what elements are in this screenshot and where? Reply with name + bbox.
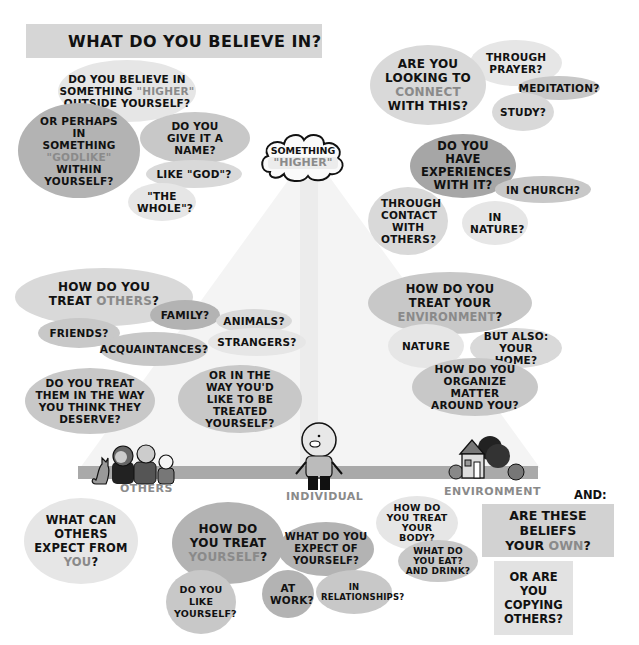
bubble-study: STUDY? xyxy=(492,93,554,131)
bubble-the-whole: "THE WHOLE"? xyxy=(128,183,196,221)
bubble-contact-others: THROUGH CONTACT WITH OTHERS? xyxy=(368,187,448,255)
others-figures-icon xyxy=(90,440,190,488)
bubble-like-yourself: DO YOU LIKE YOURSELF? xyxy=(166,570,236,634)
beliefs-own-box: ARE THESE BELIEFS YOUR OWN? xyxy=(482,504,614,557)
individual-figure-icon xyxy=(290,420,348,492)
bubble-relationships: IN RELATIONSHIPS? xyxy=(316,570,392,614)
label-others: OTHERS xyxy=(120,482,173,495)
bubble-treat-environment: HOW DO YOU TREAT YOUR ENVIRONMENT? xyxy=(368,272,532,334)
bubble-others-expect: WHAT CAN OTHERS EXPECT FROM YOU? xyxy=(24,498,138,584)
bubble-organize-matter: HOW DO YOU ORGANIZE MATTER AROUND YOU? xyxy=(412,358,538,416)
bubble-godlike: OR PERHAPS IN SOMETHING "GODLIKE" WITHIN… xyxy=(18,103,140,198)
label-environment: ENVIRONMENT xyxy=(444,485,541,498)
page-title: WHAT DO YOU BELIEVE IN? xyxy=(26,24,322,58)
and-label: AND: xyxy=(574,488,607,502)
bubble-expect-self: WHAT DO YOU EXPECT OF YOURSELF? xyxy=(278,522,374,576)
bubble-treat-yourself: OR IN THE WAY YOU'D LIKE TO BE TREATED Y… xyxy=(178,365,302,433)
bubble-acquaintances: ACQUAINTANCES? xyxy=(100,332,208,366)
bubble-strangers: STRANGERS? xyxy=(208,328,306,356)
bubble-in-nature: IN NATURE? xyxy=(462,201,528,245)
environment-house-icon xyxy=(446,432,530,482)
bubble-family: FAMILY? xyxy=(150,300,220,330)
bubble-connect: ARE YOU LOOKING TO CONNECT WITH THIS? xyxy=(370,45,486,125)
label-individual: INDIVIDUAL xyxy=(286,490,363,503)
bubble-eat-drink: WHAT DO YOU EAT? AND DRINK? xyxy=(398,540,478,582)
bubble-give-name: DO YOU GIVE IT A NAME? xyxy=(140,112,250,164)
bubble-at-work: AT WORK? xyxy=(262,570,314,618)
bubble-in-church: IN CHURCH? xyxy=(495,176,591,203)
bubble-treat-deserve: DO YOU TREAT THEM IN THE WAY YOU THINK T… xyxy=(25,368,155,434)
copying-others-box: OR ARE YOU COPYING OTHERS? xyxy=(494,561,573,635)
cloud-label: SOMETHING "HIGHER" xyxy=(268,145,338,169)
